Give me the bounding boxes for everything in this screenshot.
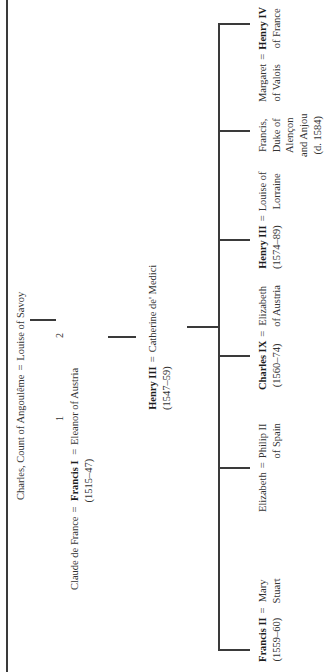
marriage-sign: = — [15, 361, 26, 375]
connector-gen3-children — [187, 326, 220, 328]
branch-charles-ix — [218, 355, 250, 357]
child-charles-ix: Charles IX (1560–74) = Elizabeth of Aust… — [256, 285, 283, 390]
generation-3-couple: Henry III (1547–59) = Catherine de' Medi… — [146, 265, 173, 410]
charles-ix-reign: (1560–74) — [270, 341, 284, 390]
spouse-line: Philip II — [256, 423, 270, 458]
philip-ii-of-spain: Philip II of Spain — [256, 423, 283, 458]
mary-stuart: Mary Stuart — [256, 578, 283, 603]
name-line: Alençon — [283, 114, 297, 157]
marriage-sign: = — [256, 327, 270, 341]
henry-king-reign: (1547–59) — [160, 366, 174, 410]
branch-francis-duke — [218, 130, 250, 132]
francis-i-node: Francis I (1515–47) — [68, 459, 95, 503]
name-line: Margaret — [256, 64, 270, 102]
marriage-sign: = — [146, 352, 160, 366]
francis-i: Francis I — [68, 459, 82, 503]
spouse-line: Mary — [256, 578, 270, 603]
francis-i-reign: (1515–47) — [82, 459, 96, 503]
spouse-line: of Austria — [270, 285, 284, 327]
child-margaret-of-valois: Margaret of Valois = Henry IV of France — [256, 7, 283, 102]
marriage-sign: = — [68, 445, 82, 459]
charles-count-of-angouleme: Charles, Count of Angoulême — [15, 375, 26, 500]
child-francis-duke-of-alencon: Francis, Duke of Alençon and Anjou (d. 1… — [256, 114, 324, 157]
margaret-of-valois: Margaret of Valois — [256, 64, 283, 102]
sibling-bar — [218, 23, 220, 651]
marriage-number-2: 2 — [54, 333, 67, 338]
henry-iii-node: Henry III (1574–89) — [256, 225, 283, 269]
charles-ix: Charles IX — [256, 341, 270, 390]
claude-de-france: Claude de France — [68, 517, 82, 590]
spouse-line: Lorraine — [270, 171, 284, 211]
spouse-line: Elizabeth — [256, 285, 270, 327]
francis-ii-node: Francis II (1559–60) — [256, 617, 283, 662]
henry-iv-node: Henry IV of France — [256, 7, 283, 50]
spouse-line: Stuart — [270, 578, 284, 603]
name-line: of Valois — [270, 64, 284, 102]
elizabeth-of-austria: Elizabeth of Austria — [256, 285, 283, 327]
marriage-sign: = — [68, 503, 82, 517]
louise-of-savoy: Louise of Savoy — [15, 292, 26, 361]
marriage-sign: = — [256, 603, 270, 617]
francis-ii-reign: (1559–60) — [270, 617, 284, 662]
name-line: Francis, — [256, 114, 270, 157]
charles-ix-node: Charles IX (1560–74) — [256, 341, 283, 390]
name-line: and Anjou — [297, 114, 311, 157]
branch-elizabeth — [218, 467, 250, 469]
henry-iv-sub: of France — [270, 7, 284, 50]
francis-duke-node: Francis, Duke of Alençon and Anjou (d. 1… — [256, 114, 324, 157]
child-francis-ii: Francis II (1559–60) = Mary Stuart — [256, 578, 283, 662]
marriage-number-1: 1 — [54, 416, 67, 421]
branch-francis-ii — [218, 649, 250, 651]
top-border-rule — [6, 0, 8, 672]
eleanor-of-austria: Eleanor of Austria — [68, 368, 82, 445]
catherine-de-medici: Catherine de' Medici — [146, 265, 160, 353]
name-line: Duke of — [270, 114, 284, 157]
marriage-sign: = — [256, 458, 270, 472]
connector-gen2-gen3 — [108, 336, 136, 338]
name-line: (d. 1584) — [311, 114, 324, 157]
henry-king-node: Henry III (1547–59) — [146, 366, 173, 410]
henry-king: Henry III — [146, 366, 160, 410]
marriage-sign: = — [256, 211, 270, 225]
marriage-sign: = — [256, 50, 270, 64]
branch-henry-iii — [218, 239, 250, 241]
francis-ii: Francis II — [256, 617, 270, 662]
generation-1-couple: Charles, Count of Angoulême=Louise of Sa… — [14, 292, 27, 500]
henry-iv: Henry IV — [256, 7, 270, 50]
spouse-line: Louise of — [256, 171, 270, 211]
louise-of-lorraine: Louise of Lorraine — [256, 171, 283, 211]
spouse-line: of Spain — [270, 423, 284, 458]
branch-margaret — [218, 23, 250, 25]
henry-iii-reign: (1574–89) — [270, 225, 284, 269]
child-henry-iii: Henry III (1574–89) = Louise of Lorraine — [256, 171, 283, 269]
henry-iii: Henry III — [256, 225, 270, 269]
elizabeth: Elizabeth — [256, 472, 270, 512]
connector-gen1-gen2 — [30, 319, 56, 321]
generation-2-couples: Claude de France = Francis I (1515–47) =… — [68, 368, 95, 590]
child-elizabeth: Elizabeth = Philip II of Spain — [256, 423, 283, 512]
